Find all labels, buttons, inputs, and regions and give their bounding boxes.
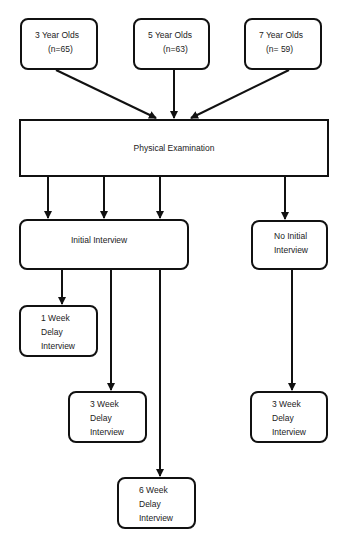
node-label: Physical Examination: [21, 141, 327, 155]
node-3-week-delay-interview-no-initial: 3 Week Delay Interview: [250, 391, 328, 443]
node-label: 3 Year Olds: [22, 28, 96, 42]
node-label-line-3: Interview: [41, 339, 96, 353]
node-label-line-1: No Initial: [274, 229, 326, 243]
node-1-week-delay-interview: 1 Week Delay Interview: [19, 305, 98, 357]
node-label: 7 Year Olds: [246, 28, 320, 42]
node-sample-size: (n=65): [22, 42, 96, 56]
node-label-line-1: 1 Week: [41, 311, 96, 325]
node-3-week-delay-interview-initial: 3 Week Delay Interview: [68, 391, 147, 443]
node-no-initial-interview: No Initial Interview: [251, 220, 328, 270]
node-3-year-olds: 3 Year Olds (n=65): [20, 18, 98, 70]
node-7-year-olds: 7 Year Olds (n= 59): [244, 18, 322, 70]
node-sample-size: (n= 59): [246, 42, 320, 56]
node-label-line-2: Delay: [90, 411, 145, 425]
node-label-line-2: Delay: [41, 325, 96, 339]
node-physical-examination: Physical Examination: [19, 119, 329, 177]
node-sample-size: (n=63): [135, 42, 208, 56]
connector-lines: [0, 0, 345, 546]
node-label-line-1: 3 Week: [90, 397, 145, 411]
node-6-week-delay-interview: 6 Week Delay Interview: [117, 477, 196, 529]
node-5-year-olds: 5 Year Olds (n=63): [133, 18, 210, 70]
node-label-line-1: 3 Week: [272, 397, 326, 411]
node-label-line-3: Interview: [139, 511, 194, 525]
node-label-line-3: Interview: [90, 425, 145, 439]
node-initial-interview: Initial Interview: [19, 219, 189, 270]
node-label-line-3: Interview: [272, 425, 326, 439]
node-label: Initial Interview: [71, 233, 187, 247]
edge-age3-physical: [56, 70, 156, 118]
node-label-line-1: 6 Week: [139, 483, 194, 497]
node-label-line-2: Delay: [139, 497, 194, 511]
study-design-flowchart: 3 Year Olds (n=65) 5 Year Olds (n=63) 7 …: [0, 0, 345, 546]
node-label-line-2: Interview: [274, 243, 326, 257]
edge-age7-physical: [191, 70, 289, 118]
node-label: 5 Year Olds: [135, 28, 208, 42]
node-label-line-2: Delay: [272, 411, 326, 425]
